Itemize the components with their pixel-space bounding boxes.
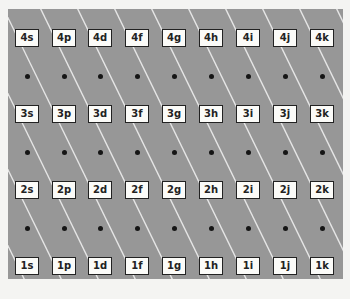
orbital-box-3s: 3s	[15, 105, 39, 123]
dot-marker	[246, 150, 251, 155]
orbital-box-1d: 1d	[88, 257, 112, 275]
orbital-box-4i: 4i	[236, 29, 260, 47]
orbital-box-4p: 4p	[52, 29, 76, 47]
dot-marker	[320, 226, 325, 231]
orbital-box-1h: 1h	[199, 257, 223, 275]
dot-marker	[98, 226, 103, 231]
dot-marker	[25, 74, 30, 79]
orbital-box-2f: 2f	[125, 181, 149, 199]
dot-marker	[62, 150, 67, 155]
orbital-box-1p: 1p	[52, 257, 76, 275]
orbital-box-2d: 2d	[88, 181, 112, 199]
dot-marker	[25, 226, 30, 231]
dot-marker	[135, 150, 140, 155]
orbital-box-1j: 1j	[273, 257, 297, 275]
dot-marker	[209, 74, 214, 79]
dot-marker	[98, 150, 103, 155]
dot-marker	[246, 226, 251, 231]
orbital-box-2s: 2s	[15, 181, 39, 199]
dot-marker	[320, 74, 325, 79]
orbital-box-3h: 3h	[199, 105, 223, 123]
dot-marker	[172, 150, 177, 155]
orbital-box-2k: 2k	[310, 181, 334, 199]
diagonal-filling-lines	[8, 9, 343, 279]
dot-marker	[320, 150, 325, 155]
orbital-box-3g: 3g	[162, 105, 186, 123]
orbital-box-1g: 1g	[162, 257, 186, 275]
dot-marker	[283, 150, 288, 155]
orbital-box-2i: 2i	[236, 181, 260, 199]
orbital-box-3f: 3f	[125, 105, 149, 123]
orbital-box-3i: 3i	[236, 105, 260, 123]
orbital-box-4f: 4f	[125, 29, 149, 47]
orbital-box-2h: 2h	[199, 181, 223, 199]
orbital-box-1s: 1s	[15, 257, 39, 275]
orbital-box-4j: 4j	[273, 29, 297, 47]
orbital-box-1f: 1f	[125, 257, 149, 275]
orbital-box-1i: 1i	[236, 257, 260, 275]
orbital-box-1k: 1k	[310, 257, 334, 275]
orbital-box-4h: 4h	[199, 29, 223, 47]
dot-marker	[246, 74, 251, 79]
orbital-box-3j: 3j	[273, 105, 297, 123]
orbital-box-4d: 4d	[88, 29, 112, 47]
orbital-box-4s: 4s	[15, 29, 39, 47]
dot-marker	[172, 226, 177, 231]
orbital-box-3p: 3p	[52, 105, 76, 123]
orbital-box-3k: 3k	[310, 105, 334, 123]
dot-marker	[283, 226, 288, 231]
dot-marker	[62, 74, 67, 79]
orbital-box-4g: 4g	[162, 29, 186, 47]
dot-marker	[172, 74, 177, 79]
dot-marker	[209, 150, 214, 155]
dot-marker	[98, 74, 103, 79]
dot-marker	[209, 226, 214, 231]
orbital-box-2j: 2j	[273, 181, 297, 199]
orbital-box-2g: 2g	[162, 181, 186, 199]
dot-marker	[25, 150, 30, 155]
orbital-box-4k: 4k	[310, 29, 334, 47]
dot-marker	[283, 74, 288, 79]
orbital-box-3d: 3d	[88, 105, 112, 123]
dot-marker	[135, 74, 140, 79]
dot-marker	[62, 226, 67, 231]
orbital-box-2p: 2p	[52, 181, 76, 199]
orbital-diagram-panel: 4s4p4d4f4g4h4i4j4k3s3p3d3f3g3h3i3j3k2s2p…	[8, 9, 343, 279]
dot-marker	[135, 226, 140, 231]
